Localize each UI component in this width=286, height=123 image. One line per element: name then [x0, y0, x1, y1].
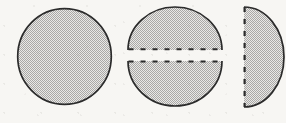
- panel-whole-disc: [18, 9, 112, 105]
- upper-half-disc-fill: [128, 7, 222, 50]
- geometry-figure: [0, 0, 286, 123]
- right-half-disc-body: [244, 7, 284, 107]
- figure-container: [0, 0, 286, 123]
- right-half-disc-fill: [244, 7, 284, 107]
- upper-half-disc: [128, 7, 222, 50]
- panel-split-disc: [128, 7, 222, 106]
- lower-half-disc-fill: [128, 61, 222, 106]
- panel-right-half-disc: [244, 7, 284, 107]
- lower-half-disc: [128, 61, 222, 106]
